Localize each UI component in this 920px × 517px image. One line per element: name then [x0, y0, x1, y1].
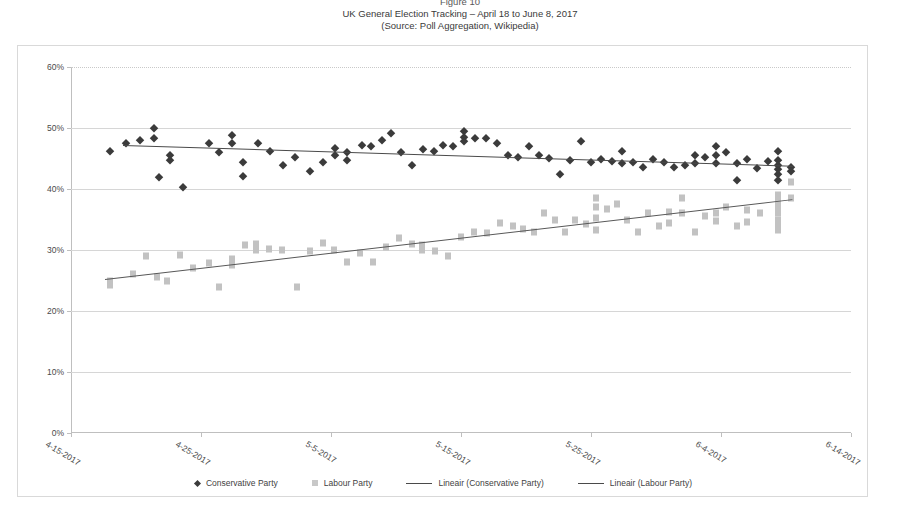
- legend-label-conservative: Conservative Party: [206, 478, 278, 488]
- gridline: [71, 189, 851, 190]
- line-marker-icon: [406, 483, 432, 484]
- data-point-conservative: [215, 149, 223, 157]
- data-point-conservative: [733, 176, 741, 184]
- data-point-labour: [279, 247, 285, 254]
- data-point-labour: [692, 228, 698, 235]
- x-axis-label: 6-4-2017: [694, 439, 728, 465]
- chart-title: UK General Election Tracking – April 18 …: [0, 8, 920, 20]
- data-point-labour: [593, 195, 599, 202]
- data-point-conservative: [670, 163, 678, 171]
- x-axis-label: 6-14-2017: [824, 439, 862, 468]
- data-point-labour: [635, 228, 641, 235]
- data-point-labour: [757, 210, 763, 217]
- data-point-conservative: [387, 129, 395, 137]
- data-point-labour: [471, 228, 477, 235]
- data-point-labour: [510, 222, 516, 229]
- data-point-labour: [666, 219, 672, 226]
- y-axis-label: 0%: [52, 428, 64, 438]
- data-point-conservative: [460, 138, 468, 146]
- data-point-conservative: [239, 172, 247, 180]
- x-axis-label: 4-15-2017: [44, 439, 82, 468]
- data-point-conservative: [764, 157, 772, 165]
- data-point-labour: [177, 251, 183, 258]
- data-point-labour: [344, 259, 350, 266]
- data-point-labour: [266, 245, 272, 252]
- line-marker-icon: [578, 483, 604, 484]
- data-point-conservative: [358, 141, 366, 149]
- data-point-conservative: [291, 153, 299, 161]
- data-point-conservative: [239, 158, 247, 166]
- legend-label-trend-conservative: Lineair (Conservative Party): [438, 478, 543, 488]
- data-point-conservative: [397, 149, 405, 157]
- data-point-conservative: [733, 159, 741, 167]
- chart-subtitle: (Source: Poll Aggregation, Wikipedia): [0, 20, 920, 32]
- data-point-labour: [614, 200, 620, 207]
- data-point-conservative: [774, 177, 782, 185]
- data-point-conservative: [367, 142, 375, 150]
- data-point-conservative: [471, 134, 479, 142]
- figure-caption: Figure 10 UK General Election Tracking –…: [0, 0, 920, 32]
- data-point-labour: [419, 247, 425, 254]
- chart-legend: Conservative Party Labour Party Lineair …: [18, 478, 869, 488]
- data-point-labour: [164, 277, 170, 284]
- y-axis-tick: [67, 189, 71, 190]
- data-point-labour: [562, 228, 568, 235]
- y-axis-tick: [67, 311, 71, 312]
- y-axis-label: 20%: [47, 306, 64, 316]
- x-axis-tick: [461, 433, 462, 437]
- x-axis-tick: [331, 433, 332, 437]
- data-point-labour: [445, 253, 451, 260]
- data-point-conservative: [743, 155, 751, 163]
- data-point-labour: [242, 242, 248, 249]
- data-point-conservative: [449, 142, 457, 150]
- data-point-conservative: [205, 139, 213, 147]
- gridline: [71, 311, 851, 312]
- data-point-conservative: [150, 124, 158, 132]
- y-axis-label: 50%: [47, 123, 64, 133]
- data-point-labour: [216, 283, 222, 290]
- legend-item-labour[interactable]: Labour Party: [312, 478, 373, 488]
- data-point-conservative: [319, 158, 327, 166]
- data-point-conservative: [618, 147, 626, 155]
- data-point-labour: [604, 205, 610, 212]
- data-point-labour: [320, 239, 326, 246]
- gridline: [71, 250, 851, 251]
- data-point-labour: [294, 283, 300, 290]
- legend-label-trend-labour: Lineair (Labour Party): [610, 478, 692, 488]
- data-point-conservative: [279, 161, 287, 169]
- y-axis-tick: [67, 67, 71, 68]
- x-axis-label: 5-15-2017: [434, 439, 472, 468]
- x-axis-tick: [591, 433, 592, 437]
- data-point-labour: [572, 216, 578, 223]
- chart-frame: 0%10%20%30%40%50%60%4-15-20174-25-20175-…: [17, 45, 868, 497]
- data-point-labour: [107, 282, 113, 289]
- data-point-labour: [253, 247, 259, 254]
- data-point-labour: [552, 216, 558, 223]
- data-point-labour: [432, 248, 438, 255]
- y-axis-label: 30%: [47, 245, 64, 255]
- x-axis-label: 5-25-2017: [564, 439, 602, 468]
- data-point-labour: [702, 212, 708, 219]
- data-point-labour: [593, 204, 599, 211]
- data-point-conservative: [439, 141, 447, 149]
- data-point-conservative: [408, 161, 416, 169]
- data-point-labour: [775, 227, 781, 234]
- diamond-marker-icon: [194, 479, 201, 486]
- data-point-labour: [679, 195, 685, 202]
- data-point-conservative: [343, 156, 351, 164]
- data-point-labour: [713, 210, 719, 217]
- data-point-conservative: [577, 138, 585, 146]
- data-point-conservative: [106, 147, 114, 155]
- y-axis-tick: [67, 128, 71, 129]
- data-point-labour: [788, 178, 794, 185]
- legend-item-trend-labour[interactable]: Lineair (Labour Party): [578, 478, 692, 488]
- legend-item-trend-conservative[interactable]: Lineair (Conservative Party): [406, 478, 543, 488]
- legend-item-conservative[interactable]: Conservative Party: [195, 478, 278, 488]
- data-point-conservative: [629, 158, 637, 166]
- y-axis-label: 10%: [47, 367, 64, 377]
- y-axis-tick: [67, 372, 71, 373]
- data-point-labour: [656, 222, 662, 229]
- gridline: [71, 67, 851, 68]
- data-point-conservative: [774, 147, 782, 155]
- data-point-conservative: [722, 149, 730, 157]
